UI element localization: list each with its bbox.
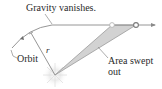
- area-swept-line1: Area swept: [108, 55, 153, 66]
- gravity-leader: [45, 14, 52, 24]
- area-swept-line2: out: [108, 66, 121, 77]
- orbit-label: Orbit: [17, 54, 38, 64]
- area-swept-label: Area swept out: [108, 55, 162, 77]
- area-leader: [98, 47, 108, 58]
- radius-label: r: [46, 46, 50, 55]
- gravity-vanishes-label: Gravity vanishes.: [26, 3, 96, 13]
- planet-position-2: [134, 23, 139, 28]
- planet-position-1: [110, 23, 115, 28]
- arrow-right-icon: [151, 23, 156, 27]
